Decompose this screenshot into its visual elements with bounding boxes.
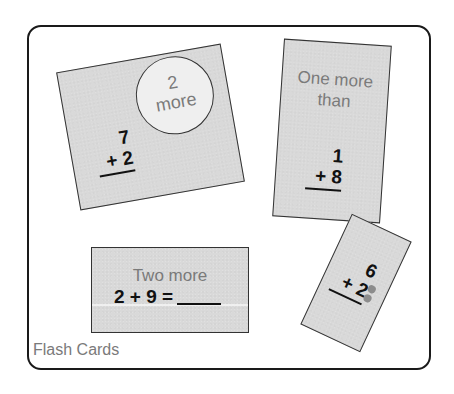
two-more-badge: 2 more xyxy=(130,50,220,140)
card-prompt: Two more xyxy=(92,266,248,286)
flash-card-one-more-than: One more than 1 + 8 xyxy=(272,39,392,224)
figure-caption: Flash Cards xyxy=(33,341,119,359)
answer-blank xyxy=(177,303,221,305)
sum-line xyxy=(305,187,341,191)
addition-problem: 1 + 8 xyxy=(305,143,344,191)
top-number: 1 xyxy=(307,143,344,166)
dot-icon xyxy=(362,293,373,304)
addend: + 8 xyxy=(305,164,342,187)
flash-card-2-more: 2 more 7 + 2 xyxy=(56,44,245,211)
equation: 2 + 9 = xyxy=(114,286,221,308)
card-prompt: One more than xyxy=(280,66,389,115)
dot-icon xyxy=(367,284,378,295)
addition-problem: 7 + 2 xyxy=(92,126,135,178)
equation-text: 2 + 9 = xyxy=(114,286,173,307)
flash-card-two-more: Two more 2 + 9 = xyxy=(91,247,249,333)
